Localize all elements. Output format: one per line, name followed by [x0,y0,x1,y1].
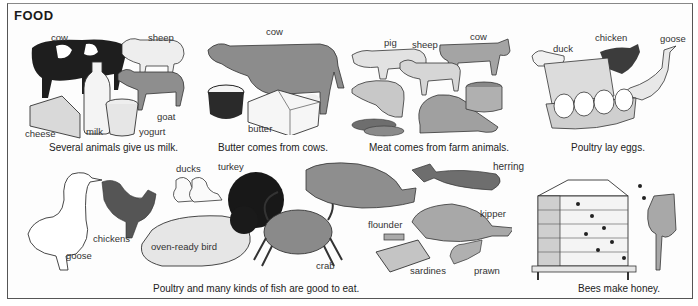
label-cow-milk: cow [51,32,68,43]
label-herring: herring [493,161,524,172]
chickens-icon [102,180,156,238]
label-goat: goat [157,111,176,122]
page-title: FOOD [14,8,54,23]
sausage-tin-icon [466,82,502,112]
milk-animals-illustration [22,30,202,140]
label-chicken: chicken [595,32,627,43]
label-goose-eggs: goose [660,33,686,44]
caption-honey: Bees make honey. [578,283,660,294]
caption-meat: Meat comes from farm animals. [369,142,509,153]
label-sheep-milk: sheep [148,32,174,43]
label-pig: pig [384,37,397,48]
butter-dish-icon [208,85,244,119]
label-cow-butter: cow [266,26,283,37]
yogurt-pot-icon [106,99,138,136]
label-oven-ready-bird: oven-ready bird [151,241,217,252]
ham-joint-icon [352,81,404,118]
caption-milk: Several animals give us milk. [49,142,178,153]
butter-illustration [200,30,350,135]
label-sardines: sardines [410,265,446,276]
honey-illustration [528,170,678,280]
label-kipper: kipper [480,208,506,219]
ducks-icon [173,177,222,202]
label-sheep-meat: sheep [412,39,438,50]
label-crab: crab [316,260,334,271]
flounder-icon [306,163,416,208]
label-ducks: ducks [176,163,201,174]
label-butter: butter [248,123,272,134]
beehive-icon [532,180,636,280]
label-cheese: cheese [25,128,56,139]
label-yogurt: yogurt [139,126,165,137]
chops-icon [352,119,404,136]
honeycomb-icon [648,194,676,270]
herring-icon [412,164,500,190]
caption-butter: Butter comes from cows. [218,142,328,153]
label-turkey: turkey [218,161,244,172]
label-goose: goose [66,250,92,261]
caption-eggs: Poultry lay eggs. [571,142,645,153]
poultry-fish-illustration [22,160,512,280]
label-milk: milk [86,126,103,137]
label-duck: duck [553,43,573,54]
label-chickens: chickens [93,233,130,244]
prawn-icon [450,240,482,264]
sheep-icon [400,60,460,95]
label-cow-meat: cow [470,31,487,42]
meat-illustration [348,35,518,140]
label-flounder: flounder [368,219,402,230]
label-prawn: prawn [474,265,500,276]
caption-poultry-fish: Poultry and many kinds of fish are good … [153,283,359,294]
